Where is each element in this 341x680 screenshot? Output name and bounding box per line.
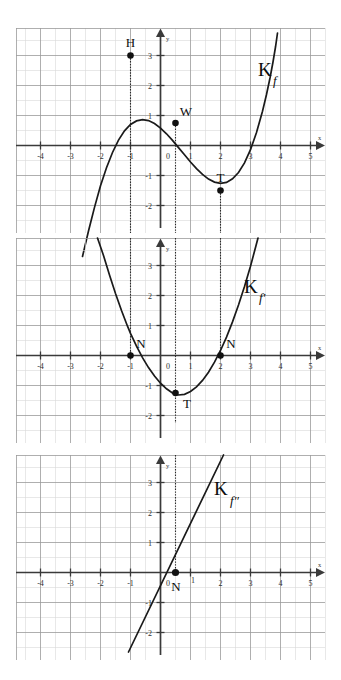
x-tick-label: -2 [97,579,104,588]
point-label-T: T [217,170,225,185]
x-tick-label: -4 [37,362,44,371]
point-W [172,120,179,127]
x-tick-label: 1 [191,576,195,585]
x-tick-label: -1 [127,362,134,371]
y-tick-label: -2 [145,202,152,211]
y-tick-label: 1 [148,112,152,121]
marked-points-k-f-double-prime [172,569,179,576]
x-tick-label: -3 [67,152,74,161]
x-tick-label: -2 [97,152,104,161]
x-axis-title: x [318,344,322,351]
x-tick-label: 5 [309,362,313,371]
axes-k-f [16,29,325,229]
x-tick-labels-k-f: -4 -3 -2 -1 0 1 2 3 4 5 [37,152,312,161]
curve-label-k-f-prime-subscript: f' [259,290,266,305]
y-axis-title: y [166,35,170,42]
point-N-left [127,352,134,359]
chart-panel-k-f-prime: -4 -3 -2 -1 0 1 2 3 4 5 3 2 1 -1 -2 x y [16,238,325,443]
x-tick-label: -3 [67,362,74,371]
point-T [217,187,224,194]
x-tick-label: -1 [127,579,134,588]
y-tick-label: -2 [145,412,152,421]
y-tick-label: 3 [148,262,152,271]
y-tick-label: 2 [148,292,152,301]
x-tick-label: 0 [166,579,170,588]
x-tick-label: 0 [166,362,170,371]
x-tick-label: 2 [219,362,223,371]
y-tick-label: 1 [148,539,152,548]
point-N [172,569,179,576]
x-axis-title: x [318,561,322,568]
x-tick-label: 0 [166,152,170,161]
x-tick-label: 4 [279,362,283,371]
y-tick-label: 2 [148,82,152,91]
point-H [127,52,134,59]
point-label-W: W [180,104,193,119]
point-label-N: N [171,579,181,594]
x-tick-label: 3 [249,362,253,371]
axes-k-f-double-prime [16,456,325,656]
point-label-H: H [126,35,135,50]
curve-label-k-f-double-prime-subscript: f″ [230,493,240,508]
chart-panel-k-f-double-prime: -4 -3 -2 -1 0 1 2 3 4 5 3 2 1 -1 -2 x y [16,455,325,660]
chart-svg-k-f: -4 -3 -2 -1 0 1 2 3 4 5 3 2 1 -1 -2 x y [16,28,325,233]
x-tick-label: -4 [37,579,44,588]
axes-k-f-prime [16,239,325,439]
point-N-right [217,352,224,359]
x-tick-label: -3 [67,579,74,588]
point-label-N-right: N [226,336,236,351]
point-label-T: T [183,396,191,411]
grid-minor [16,238,326,443]
x-tick-label: -4 [37,152,44,161]
curve-k-f-double-prime [129,455,224,652]
curve-label-k-f-double-prime: K [214,478,228,499]
y-tick-label: 1 [148,322,152,331]
y-tick-labels-k-f-prime: 3 2 1 -1 -2 [145,262,152,421]
curve-label-k-f-prime: K [244,276,258,297]
grid-minor [16,455,326,660]
chart-svg-k-f-prime: -4 -3 -2 -1 0 1 2 3 4 5 3 2 1 -1 -2 x y [16,238,325,443]
grid-minor [16,28,326,233]
x-tick-label: 4 [279,152,283,161]
x-axis-title: x [318,134,322,141]
x-tick-labels-k-f-prime: -4 -3 -2 -1 0 1 2 3 4 5 [37,362,312,371]
y-tick-label: -1 [145,382,152,391]
x-tick-label: 3 [249,579,253,588]
x-tick-label: 2 [219,579,223,588]
y-axis-title: y [166,245,170,252]
y-tick-label: 2 [148,509,152,518]
y-tick-label: 3 [148,479,152,488]
figure-sheet: -4 -3 -2 -1 0 1 2 3 4 5 3 2 1 -1 -2 x y [0,0,341,680]
x-tick-label: 4 [279,579,283,588]
x-tick-label: 5 [309,152,313,161]
curve-k-f-prime [98,238,259,395]
chart-panel-k-f: -4 -3 -2 -1 0 1 2 3 4 5 3 2 1 -1 -2 x y [16,28,325,233]
x-tick-label: 1 [189,362,193,371]
y-axis-title: y [166,462,170,469]
y-tick-labels-k-f: 3 2 1 -1 -2 [145,52,152,211]
point-label-N-left: N [136,336,146,351]
y-tick-label: -2 [145,629,152,638]
x-tick-label: 2 [219,152,223,161]
y-tick-label: -1 [145,172,152,181]
y-tick-label: 3 [148,52,152,61]
x-tick-label: -2 [97,362,104,371]
curve-label-k-f: K [258,59,272,80]
chart-svg-k-f-double-prime: -4 -3 -2 -1 0 1 2 3 4 5 3 2 1 -1 -2 x y [16,455,325,660]
point-T [172,390,179,397]
x-tick-label: 5 [309,579,313,588]
